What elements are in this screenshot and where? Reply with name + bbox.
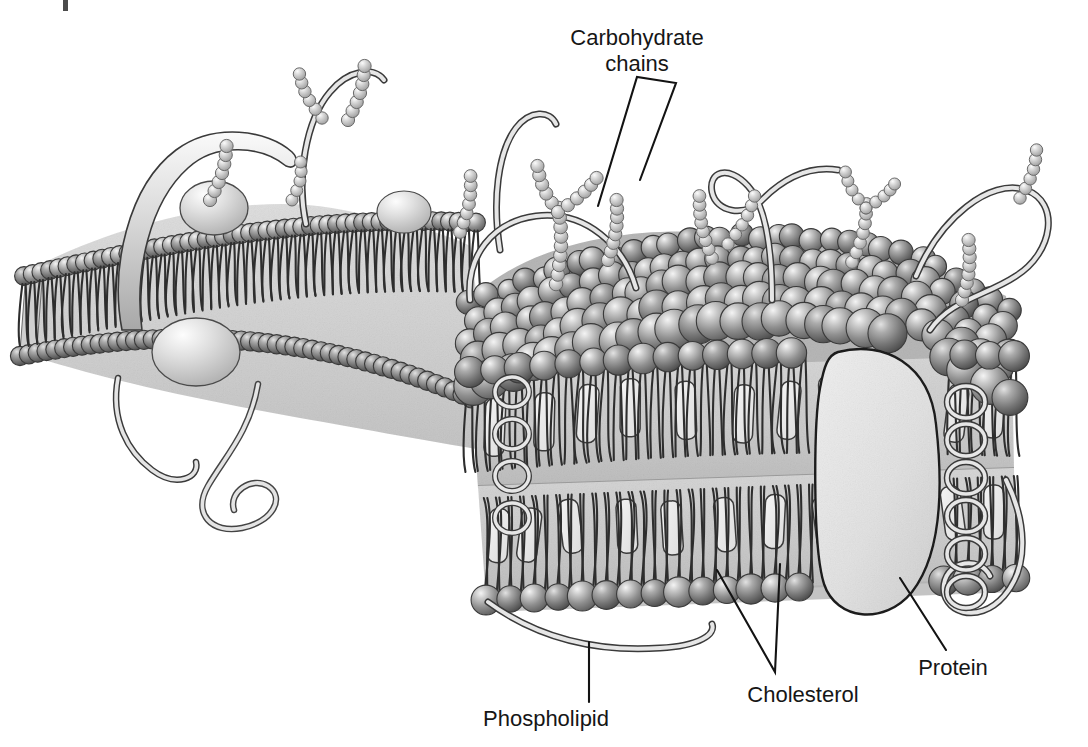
membrane-illustration: Carbohydrate chains Protein Phospholipid… <box>0 0 1088 747</box>
membrane-bulge-left <box>152 318 240 386</box>
figure-canvas: Carbohydrate chains Protein Phospholipid… <box>0 0 1088 747</box>
label-protein: Protein <box>918 655 988 680</box>
protein-body <box>815 349 939 615</box>
integral-protein <box>815 349 939 615</box>
label-cholesterol: Cholesterol <box>747 682 858 707</box>
leader-carbohydrate-chains <box>598 77 676 206</box>
label-phospholipid: Phospholipid <box>483 706 609 731</box>
membrane-left-sheet <box>10 181 507 452</box>
membrane-bulge-mid <box>377 191 431 233</box>
glycoprotein-tube-mid-inner <box>302 72 384 224</box>
label-carbohydrate-chains-line2: chains <box>605 51 669 76</box>
glycoprotein-tube-mid <box>302 72 384 224</box>
label-carbohydrate-chains-line1: Carbohydrate <box>570 25 703 50</box>
